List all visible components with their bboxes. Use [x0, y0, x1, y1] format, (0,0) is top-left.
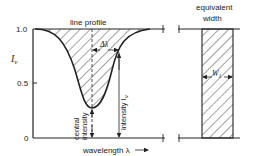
equivalent-width-label: equivalent	[196, 3, 233, 12]
tick-label-0: 0	[24, 134, 29, 143]
delta-lambda-label: Δλ	[99, 40, 109, 49]
axis-symbol: Iν	[10, 53, 18, 66]
absorption-area	[35, 29, 150, 108]
equivalent-width-label-2: width	[202, 14, 222, 23]
central-intensity-label-2: intensity	[80, 112, 89, 140]
equivalent-width-rect	[202, 29, 233, 138]
line-profile-diagram: 1.0 0.5 0 Iν line profile Δλ intensity I…	[0, 0, 256, 156]
line-profile-label: line profile	[70, 18, 107, 27]
tick-label-0.5: 0.5	[17, 79, 29, 88]
intensity-label: intensity Iν	[119, 95, 129, 130]
wavelength-label: wavelength λ	[82, 146, 130, 155]
tick-label-1: 1.0	[16, 25, 28, 34]
